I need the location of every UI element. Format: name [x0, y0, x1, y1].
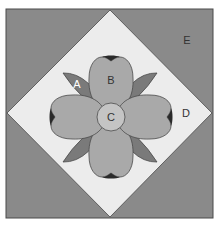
label-D: D	[182, 107, 190, 119]
quilt-block-diagram: A B C D E	[0, 0, 219, 225]
label-C: C	[107, 111, 115, 123]
label-A: A	[73, 78, 81, 90]
label-E: E	[183, 34, 190, 46]
label-B: B	[107, 74, 114, 86]
